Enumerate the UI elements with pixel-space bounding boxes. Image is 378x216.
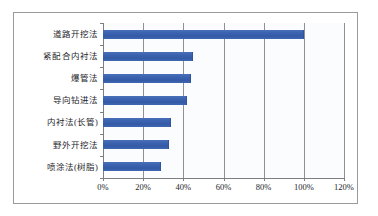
category-axis: 道路开挖法 紧配合内衬法 爆管法 导向钻进法 内衬法(长管) 野外开挖法 喷涂法…: [16, 23, 102, 178]
x-axis-tick: [103, 178, 104, 181]
x-axis-tick: [224, 178, 225, 181]
x-axis-tick: [264, 178, 265, 181]
bar[interactable]: [103, 118, 171, 127]
chart-body: 道路开挖法 紧配合内衬法 爆管法 导向钻进法 内衬法(长管) 野外开挖法 喷涂法…: [14, 13, 357, 203]
category-label: 道路开挖法: [16, 23, 102, 45]
x-axis-tick: [143, 178, 144, 181]
chart-frame: 道路开挖法 紧配合内衬法 爆管法 导向钻进法 内衬法(长管) 野外开挖法 喷涂法…: [13, 12, 358, 204]
bar[interactable]: [103, 162, 161, 171]
plot-area: [103, 23, 344, 178]
bar[interactable]: [103, 140, 169, 149]
bar[interactable]: [103, 30, 304, 39]
category-label: 内衬法(长管): [16, 112, 102, 134]
x-axis-label: 120%: [334, 183, 354, 192]
x-axis-label: 60%: [216, 183, 232, 192]
category-label: 野外开挖法: [16, 134, 102, 156]
x-axis-label: 40%: [176, 183, 192, 192]
category-label: 爆管法: [16, 67, 102, 89]
x-axis-label: 100%: [294, 183, 314, 192]
bar-row: [103, 23, 344, 45]
x-axis: 0%20%40%60%80%100%120%: [103, 178, 344, 200]
category-label: 导向钻进法: [16, 89, 102, 111]
bar[interactable]: [103, 96, 187, 105]
bar-row: [103, 112, 344, 134]
bar-row: [103, 45, 344, 67]
bar-row: [103, 134, 344, 156]
x-axis-label: 80%: [256, 183, 272, 192]
x-axis-label: 0%: [97, 183, 108, 192]
bar[interactable]: [103, 52, 193, 61]
x-axis-tick: [304, 178, 305, 181]
x-axis-tick: [183, 178, 184, 181]
x-axis-label: 20%: [135, 183, 151, 192]
gridline: [344, 23, 345, 178]
bar-row: [103, 89, 344, 111]
bar-row: [103, 67, 344, 89]
bar[interactable]: [103, 74, 191, 83]
category-label: 喷涂法(树脂): [16, 156, 102, 178]
category-label: 紧配合内衬法: [16, 45, 102, 67]
bar-series: [103, 23, 344, 178]
x-axis-tick: [344, 178, 345, 181]
bar-row: [103, 156, 344, 178]
